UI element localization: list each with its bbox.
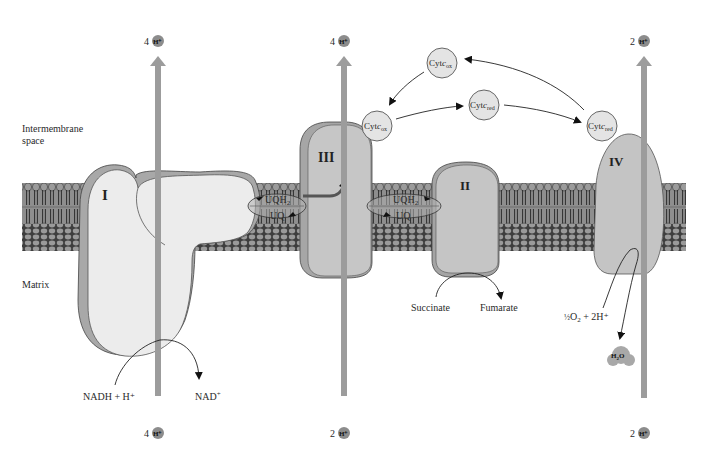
proton-badge-III-top: 4 H⁺	[330, 35, 350, 47]
svg-text:H⁺: H⁺	[339, 430, 348, 438]
proton-badge-IV-bottom: 2 H⁺	[630, 427, 650, 439]
complex-II-reaction: Succinate Fumarate	[411, 273, 518, 313]
svg-text:2: 2	[330, 428, 335, 439]
svg-text:2: 2	[630, 36, 635, 47]
proton-badge-IV-top: 2 H⁺	[630, 35, 650, 47]
intermembrane-space-label: Intermembrane	[22, 123, 84, 134]
svg-text:H2O: H2O	[611, 352, 625, 361]
complex-II-label: II	[460, 178, 470, 193]
succinate-label: Succinate	[411, 302, 450, 313]
intermembrane-space-label-line2: space	[22, 135, 45, 146]
cytochrome-c-red-middle: Cytcred	[469, 90, 499, 120]
cytochrome-c-ox-top: Cytcox	[427, 48, 457, 78]
svg-text:2: 2	[630, 428, 635, 439]
complex-IV: IV	[594, 134, 664, 274]
svg-text:H⁺: H⁺	[639, 430, 648, 438]
svg-text:4: 4	[144, 428, 149, 439]
matrix-label: Matrix	[22, 279, 49, 290]
complex-I: I	[78, 165, 260, 356]
uq-label-right: UQ	[396, 210, 411, 221]
complex-III-label: III	[318, 150, 334, 165]
svg-text:H⁺: H⁺	[153, 38, 162, 46]
cytochrome-c-red-right: Cytcred	[587, 111, 617, 141]
nad-label: NAD+	[195, 390, 221, 402]
electron-transport-chain-diagram: Intermembrane space Matrix I II III IV U…	[0, 0, 713, 454]
water-molecule: H2O	[607, 346, 635, 366]
complex-III: III	[300, 122, 372, 278]
proton-badge-III-bottom: 2 H⁺	[330, 427, 350, 439]
cytochrome-c-ox-left: Cytcox	[362, 111, 392, 141]
complex-I-label: I	[102, 187, 108, 203]
complex-II: II	[432, 162, 499, 277]
proton-badge-I-top: 4 H⁺	[144, 35, 164, 47]
svg-text:4: 4	[330, 36, 335, 47]
oxygen-label: ½O2 + 2H⁺	[564, 311, 609, 324]
proton-badge-I-bottom: 4 H⁺	[144, 427, 164, 439]
complex-IV-label: IV	[609, 154, 624, 169]
svg-text:H⁺: H⁺	[339, 38, 348, 46]
fumarate-label: Fumarate	[480, 302, 518, 313]
svg-text:4: 4	[144, 36, 149, 47]
uq-label-left: UQ	[270, 210, 285, 221]
nadh-label: NADH + H⁺	[83, 391, 135, 402]
svg-text:H⁺: H⁺	[639, 38, 648, 46]
svg-text:H⁺: H⁺	[153, 430, 162, 438]
